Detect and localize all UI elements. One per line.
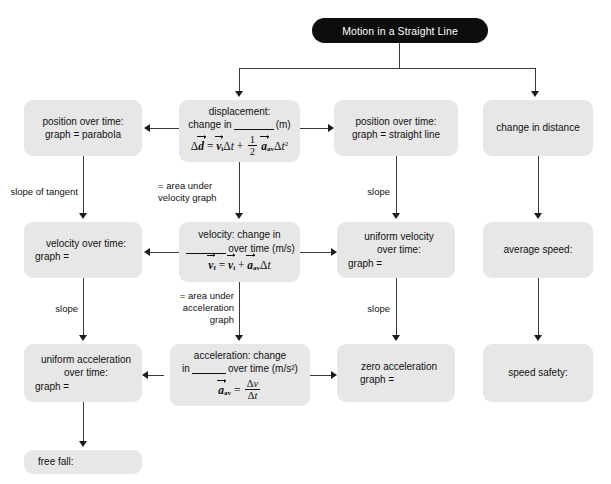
connector-distribution-bus bbox=[239, 68, 536, 69]
connector-displacement-to-straight-line bbox=[300, 128, 328, 129]
connector-velocity-to-uniform-velocity bbox=[300, 252, 331, 253]
arrowhead-to-zero-acceleration bbox=[392, 335, 400, 341]
box-line-prefix: in bbox=[182, 363, 190, 374]
formula-displacement: Δd = viΔt + 12 aavΔt2 bbox=[191, 134, 288, 157]
edge-label-line: velocity graph bbox=[158, 192, 236, 204]
connector-title-stem bbox=[399, 43, 400, 69]
edge-label-area-under-acceleration: = area under acceleration graph bbox=[152, 290, 234, 326]
box-line-with-blank: change in(m) bbox=[188, 118, 290, 132]
box-line-suffix: over time (m/s) bbox=[228, 243, 295, 254]
diagram-title-node: Motion in a Straight Line bbox=[312, 18, 488, 43]
box-velocity-over-time: velocity over time: graph = bbox=[24, 222, 142, 278]
arrowhead-to-acceleration bbox=[235, 335, 243, 341]
box-line: graph = straight line bbox=[352, 128, 440, 142]
box-line: free fall: bbox=[38, 455, 74, 469]
connector-uniform-velocity-to-zero-accel bbox=[396, 278, 397, 336]
box-line-prefix: change in bbox=[188, 119, 231, 130]
arrowhead-to-free-fall bbox=[79, 441, 87, 447]
arrowhead-to-zero-acceleration-box bbox=[331, 371, 337, 379]
box-velocity: velocity: change in over time (m/s) vf =… bbox=[179, 222, 300, 282]
edge-label-slope-col1-row3: slope bbox=[10, 303, 78, 315]
box-speed-safety: speed safety: bbox=[483, 344, 593, 402]
box-position-over-time-parabola: position over time: graph = parabola bbox=[24, 100, 142, 156]
box-line: over time: bbox=[35, 366, 137, 380]
box-line: position over time: bbox=[355, 115, 436, 129]
arrowhead-to-average-speed bbox=[534, 213, 542, 219]
box-acceleration: acceleration: change inover time (m/s²) … bbox=[170, 344, 310, 406]
arrowhead-to-uniform-acceleration-box bbox=[142, 371, 148, 379]
box-position-over-time-straight-line: position over time: graph = straight lin… bbox=[334, 100, 458, 156]
box-line-suffix: over time (m/s²) bbox=[228, 363, 298, 374]
connector-straight-line-to-uniform-velocity bbox=[396, 156, 397, 214]
edge-label-slope-of-tangent: slope of tangent bbox=[0, 186, 78, 198]
box-line: over time: bbox=[348, 243, 450, 257]
connector-uniform-accel-to-free-fall bbox=[83, 402, 84, 442]
box-line: average speed: bbox=[504, 243, 573, 257]
box-zero-acceleration: zero acceleration graph = bbox=[337, 344, 455, 402]
box-average-speed: average speed: bbox=[483, 222, 593, 278]
connector-acceleration-to-zero-accel bbox=[310, 375, 331, 376]
box-line: graph = bbox=[348, 257, 382, 271]
box-free-fall: free fall: bbox=[24, 450, 142, 474]
arrowhead-to-uniform-velocity-box bbox=[331, 248, 337, 256]
connector-bus-drop-displacement bbox=[239, 68, 240, 92]
arrowhead-to-change-distance bbox=[531, 91, 539, 97]
formula-acceleration: aav = ΔvΔt bbox=[218, 378, 261, 401]
box-line: graph = bbox=[35, 380, 69, 394]
arrowhead-to-position-straight-line bbox=[328, 124, 334, 132]
connector-parabola-to-velocity-graph bbox=[83, 156, 84, 214]
arrowhead-to-velocity-over-time bbox=[144, 248, 150, 256]
arrowhead-to-speed-safety bbox=[534, 335, 542, 341]
edge-label-line: = area under bbox=[158, 180, 236, 192]
box-line: graph = parabola bbox=[45, 128, 121, 142]
arrowhead-to-position-parabola bbox=[144, 124, 150, 132]
box-line: displacement: bbox=[209, 105, 271, 119]
box-uniform-acceleration: uniform acceleration over time: graph = bbox=[24, 344, 142, 402]
connector-velocity-to-velocity-graph bbox=[150, 252, 179, 253]
connector-bus-drop-distance bbox=[535, 68, 536, 92]
box-line: acceleration: change bbox=[194, 349, 286, 363]
connector-displacement-to-parabola bbox=[150, 128, 179, 129]
box-line-with-blank: over time (m/s) bbox=[184, 242, 295, 256]
box-line: position over time: bbox=[42, 115, 123, 129]
fill-in-blank bbox=[186, 253, 226, 254]
box-change-in-distance: change in distance bbox=[483, 100, 593, 156]
box-displacement: displacement: change in(m) Δd = viΔt + 1… bbox=[179, 100, 300, 162]
arrowhead-to-velocity-graph bbox=[79, 213, 87, 219]
arrowhead-to-uniform-velocity bbox=[392, 213, 400, 219]
box-line-with-blank: inover time (m/s²) bbox=[182, 362, 298, 376]
connector-velocity-to-acceleration bbox=[239, 282, 240, 336]
edge-label-line: = area under bbox=[152, 290, 234, 302]
box-line: speed safety: bbox=[508, 366, 567, 380]
box-line: zero acceleration bbox=[348, 360, 450, 374]
edge-label-line: graph bbox=[152, 314, 234, 326]
box-line: uniform acceleration bbox=[35, 353, 137, 367]
formula-velocity: vf = vi + aavΔt bbox=[208, 258, 270, 276]
arrowhead-to-uniform-acceleration bbox=[79, 335, 87, 341]
connector-acceleration-to-uniform-accel bbox=[148, 375, 164, 376]
connector-displacement-to-velocity bbox=[239, 162, 240, 214]
edge-label-slope-col3-row3: slope bbox=[330, 303, 390, 315]
box-line: graph = bbox=[348, 373, 394, 387]
box-line: change in distance bbox=[496, 121, 579, 135]
connector-average-speed-to-speed-safety bbox=[538, 278, 539, 336]
box-line: velocity over time: bbox=[35, 237, 137, 251]
edge-label-slope-col3-row2: slope bbox=[330, 186, 390, 198]
fill-in-blank bbox=[234, 129, 274, 130]
fill-in-blank bbox=[192, 373, 226, 374]
flowchart-diagram: Motion in a Straight Line position over … bbox=[0, 0, 611, 484]
arrowhead-to-displacement bbox=[235, 91, 243, 97]
diagram-title-label: Motion in a Straight Line bbox=[342, 25, 458, 37]
box-line: uniform velocity bbox=[348, 230, 450, 244]
connector-distance-to-average-speed bbox=[538, 156, 539, 214]
box-line: velocity: change in bbox=[198, 228, 280, 242]
connector-velocity-graph-to-uniform-accel bbox=[83, 278, 84, 336]
box-line: graph = bbox=[35, 250, 69, 264]
edge-label-line: acceleration bbox=[152, 302, 234, 314]
box-line-suffix: (m) bbox=[276, 119, 291, 130]
arrowhead-to-velocity bbox=[235, 213, 243, 219]
box-uniform-velocity: uniform velocity over time: graph = bbox=[337, 222, 455, 278]
edge-label-area-under-velocity: = area under velocity graph bbox=[158, 180, 236, 204]
